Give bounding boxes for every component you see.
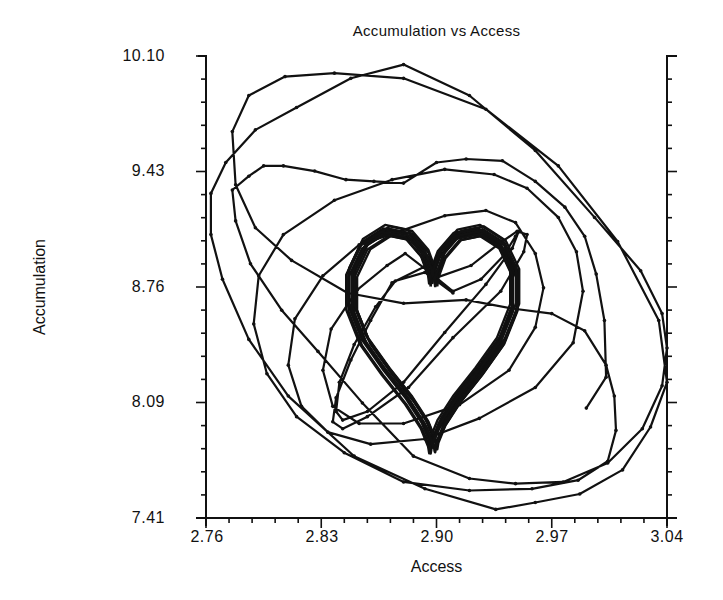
data-point bbox=[295, 415, 299, 419]
plot-svg bbox=[0, 0, 723, 600]
data-point bbox=[287, 363, 291, 367]
data-point bbox=[331, 405, 335, 409]
data-point bbox=[295, 106, 299, 110]
data-point bbox=[265, 372, 269, 376]
data-point bbox=[209, 233, 213, 237]
data-point bbox=[366, 410, 370, 414]
data-point bbox=[443, 214, 447, 218]
data-point bbox=[247, 94, 251, 98]
data-point bbox=[514, 235, 518, 239]
data-point bbox=[464, 298, 468, 302]
data-point bbox=[343, 451, 347, 455]
data-point bbox=[594, 272, 598, 276]
data-point bbox=[657, 319, 661, 323]
data-point bbox=[492, 173, 496, 177]
data-point bbox=[443, 331, 447, 335]
data-point bbox=[563, 205, 567, 209]
data-point bbox=[479, 277, 483, 281]
data-point bbox=[525, 186, 529, 190]
data-point bbox=[369, 319, 373, 323]
data-point bbox=[443, 168, 447, 172]
data-point bbox=[402, 77, 406, 81]
data-point bbox=[385, 264, 389, 268]
data-point bbox=[469, 264, 473, 268]
data-point bbox=[369, 442, 373, 446]
data-point bbox=[507, 368, 511, 372]
data-point bbox=[533, 149, 537, 153]
data-point bbox=[374, 305, 378, 309]
data-point bbox=[366, 415, 370, 419]
data-point bbox=[639, 269, 643, 273]
data-point bbox=[352, 454, 356, 458]
data-point bbox=[649, 425, 653, 429]
data-point bbox=[283, 75, 287, 79]
data-point bbox=[234, 219, 238, 223]
data-point bbox=[394, 279, 398, 283]
data-point bbox=[247, 338, 251, 342]
data-point bbox=[247, 174, 251, 178]
data-point bbox=[326, 430, 330, 434]
data-point bbox=[402, 63, 406, 67]
data-point bbox=[464, 157, 468, 161]
data-point bbox=[665, 381, 669, 385]
data-point bbox=[333, 71, 337, 75]
data-point bbox=[542, 286, 546, 290]
data-point bbox=[282, 233, 286, 237]
data-point bbox=[349, 358, 353, 362]
data-point bbox=[557, 164, 561, 168]
data-point bbox=[334, 396, 338, 400]
data-point bbox=[575, 250, 579, 254]
data-point bbox=[390, 281, 394, 285]
data-point bbox=[361, 401, 365, 405]
data-point bbox=[344, 178, 348, 182]
data-point bbox=[494, 508, 498, 512]
data-point bbox=[484, 283, 488, 287]
data-point bbox=[578, 492, 582, 496]
data-point bbox=[660, 384, 664, 388]
data-point bbox=[412, 454, 416, 458]
data-point bbox=[571, 341, 575, 345]
data-point bbox=[451, 336, 455, 340]
data-point bbox=[352, 343, 356, 347]
data-point bbox=[333, 198, 337, 202]
data-point bbox=[231, 130, 235, 134]
data-point bbox=[224, 161, 228, 165]
data-point bbox=[390, 178, 394, 182]
data-point bbox=[533, 386, 537, 390]
data-point bbox=[357, 422, 361, 426]
data-point bbox=[451, 291, 455, 295]
data-point bbox=[576, 478, 580, 482]
data-point bbox=[221, 277, 225, 281]
data-point bbox=[525, 233, 529, 237]
data-point bbox=[530, 487, 534, 491]
data-point bbox=[402, 181, 406, 185]
data-point bbox=[533, 501, 537, 505]
data-point bbox=[252, 322, 256, 326]
data-point bbox=[280, 308, 284, 312]
data-point bbox=[321, 274, 325, 278]
data-point bbox=[341, 427, 345, 431]
data-point bbox=[522, 250, 526, 254]
data-point bbox=[334, 410, 338, 414]
data-point bbox=[402, 302, 406, 306]
data-point bbox=[468, 94, 472, 98]
data-point bbox=[533, 252, 537, 256]
data-point bbox=[290, 259, 294, 263]
data-point bbox=[282, 164, 286, 168]
data-point bbox=[613, 394, 617, 398]
data-point bbox=[561, 480, 565, 484]
chart-area: Accumulation vs Access Accumulation Acce… bbox=[0, 0, 723, 600]
data-point bbox=[372, 180, 376, 184]
data-point bbox=[262, 164, 266, 168]
data-point bbox=[585, 406, 589, 410]
data-point bbox=[300, 405, 304, 409]
data-point bbox=[468, 477, 472, 481]
data-point bbox=[293, 317, 297, 321]
data-point bbox=[341, 418, 345, 422]
data-point bbox=[616, 240, 620, 244]
data-point bbox=[514, 221, 518, 225]
data-point bbox=[435, 161, 439, 165]
data-point bbox=[209, 192, 213, 196]
data-point bbox=[484, 107, 488, 111]
data-point bbox=[604, 375, 608, 379]
